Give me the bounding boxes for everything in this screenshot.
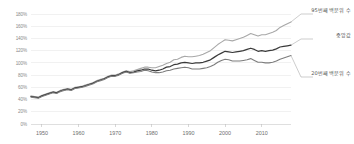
y-axis-tick-label: 160% (16, 24, 27, 29)
y-axis-tick-label: 40% (18, 97, 27, 102)
x-axis-tick-label: 1950 (36, 130, 48, 136)
y-axis-tick-label: 0% (21, 122, 27, 127)
chart-canvas: 0%20%40%60%80%100%120%140%160%180% 19501… (0, 0, 354, 144)
annotation-leader-line (291, 56, 313, 77)
x-axis-tick-label: 2010 (256, 130, 268, 136)
x-axis-tick-label: 1960 (73, 130, 85, 136)
data-series-group (31, 22, 291, 98)
y-axis-tick-label: 120% (16, 48, 27, 53)
x-axis-labels-group: 1950196019701980199020002010 (36, 130, 268, 136)
x-axis-tick-label: 1980 (146, 130, 158, 136)
y-axis-tick-label: 180% (16, 12, 27, 17)
percentile-line-chart: 0%20%40%60%80%100%120%140%160%180% 19501… (0, 0, 354, 144)
y-axis-labels-group: 0%20%40%60%80%100%120%140%160%180% (16, 12, 27, 127)
y-axis-tick-label: 20% (18, 109, 27, 114)
series-label-1: 중앙값 (336, 32, 351, 39)
y-axis-tick-label: 100% (16, 61, 27, 66)
y-axis-tick-label: 140% (16, 36, 27, 41)
series-label-2: 20번째 백분위 수 (311, 70, 351, 77)
series-label-0: 95번째 백분위 수 (311, 7, 351, 14)
annotation-leader-line (291, 39, 313, 45)
x-axis-group (42, 124, 262, 127)
y-axis-tick-label: 80% (18, 73, 27, 78)
y-axis-tick-label: 60% (18, 85, 27, 90)
x-axis-tick-label: 2000 (219, 130, 231, 136)
data-series-line (31, 56, 291, 99)
x-axis-tick-label: 1970 (109, 130, 121, 136)
series-annotations-group: 95번째 백분위 수중앙값20번째 백분위 수 (291, 7, 351, 77)
x-axis-tick-label: 1990 (182, 130, 194, 136)
annotation-leader-line (291, 14, 313, 22)
